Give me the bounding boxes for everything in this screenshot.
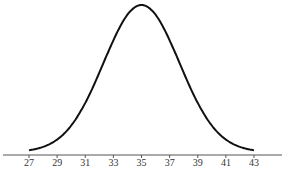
x-tick-label-43: 43 — [249, 157, 259, 168]
x-tick-label-31: 31 — [80, 157, 90, 168]
x-tick-label-41: 41 — [221, 157, 231, 168]
x-axis-tick-labels: 272931333537394143 — [24, 157, 259, 168]
x-tick-label-37: 37 — [165, 157, 175, 168]
x-tick-label-39: 39 — [193, 157, 203, 168]
normal-distribution-curve — [29, 5, 254, 150]
x-tick-label-33: 33 — [108, 157, 118, 168]
x-tick-label-27: 27 — [24, 157, 34, 168]
x-tick-label-35: 35 — [137, 157, 147, 168]
x-tick-label-29: 29 — [52, 157, 62, 168]
normal-curve-chart: 272931333537394143 — [0, 0, 285, 169]
